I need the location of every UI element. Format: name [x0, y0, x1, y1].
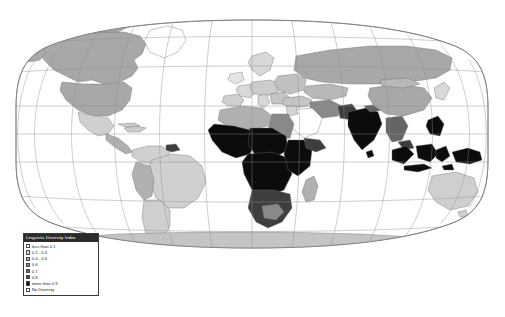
legend-swatch-icon [26, 275, 30, 279]
legend-item-label: 0.7 [32, 269, 38, 274]
legend-item-label: 0.4 - 0.5 [32, 256, 47, 261]
map-legend: Linguistic Diversity Index less than 0.1… [23, 233, 99, 296]
world-map-figure: Linguistic Diversity Index less than 0.1… [0, 0, 505, 317]
legend-swatch-icon [26, 288, 30, 292]
legend-swatch-icon [26, 281, 30, 285]
legend-item-label: less than 0.1 [32, 244, 56, 249]
legend-item-list: less than 0.1 0.2 - 0.3 0.4 - 0.5 0.6 0.… [24, 242, 98, 295]
region-new-zealand [484, 196, 496, 212]
legend-item-label: No Diversity [32, 287, 55, 292]
legend-item-label: 0.6 [32, 262, 38, 267]
legend-swatch-icon [26, 250, 30, 254]
legend-item-label: 0.8 [32, 275, 38, 280]
legend-title: Linguistic Diversity Index [24, 234, 98, 242]
legend-item: No Diversity [26, 287, 96, 293]
legend-swatch-icon [26, 257, 30, 261]
legend-swatch-icon [26, 269, 30, 273]
legend-item-label: 0.2 - 0.3 [32, 250, 47, 255]
graticule-layer [15, 20, 489, 248]
legend-item-label: more than 0.9 [32, 281, 58, 286]
legend-swatch-icon [26, 263, 30, 267]
legend-swatch-icon [26, 244, 30, 248]
